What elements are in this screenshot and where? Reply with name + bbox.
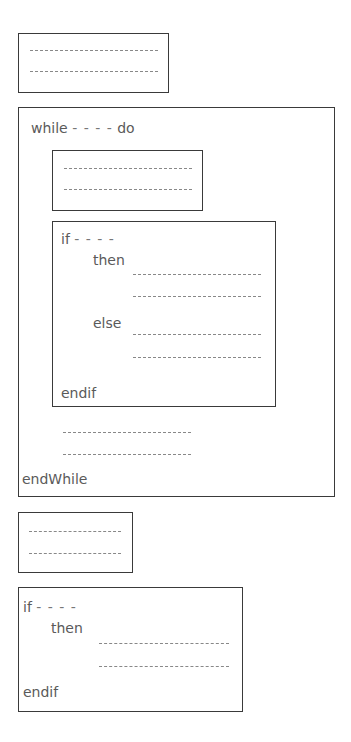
sequence-block-3: [18, 512, 133, 573]
while-block: while - - - - do if - - - - then else en…: [18, 107, 335, 497]
if-condition: - - - -: [74, 231, 115, 247]
placeholder-line: [63, 454, 191, 455]
placeholder-line: [133, 296, 261, 297]
endif-keyword: endif: [23, 684, 58, 700]
if-header: if - - - -: [23, 599, 77, 615]
placeholder-line: [133, 274, 261, 275]
while-keyword: while: [31, 120, 68, 136]
sequence-block-2: [52, 150, 203, 211]
do-keyword: do: [117, 120, 134, 136]
placeholder-line: [64, 189, 192, 190]
endif-keyword: endif: [61, 385, 96, 401]
placeholder-line: [133, 334, 261, 335]
placeholder-line: [30, 50, 158, 51]
then-keyword: then: [51, 620, 83, 636]
then-keyword: then: [93, 252, 125, 268]
placeholder-line: [99, 643, 229, 644]
if-then-block: if - - - - then endif: [18, 587, 243, 712]
placeholder-line: [99, 666, 229, 667]
while-header: while - - - - do: [31, 120, 135, 136]
if-keyword: if: [61, 231, 70, 247]
if-keyword: if: [23, 599, 32, 615]
placeholder-line: [64, 168, 192, 169]
else-keyword: else: [93, 315, 121, 331]
sequence-block-1: [18, 33, 169, 93]
if-header: if - - - -: [61, 231, 115, 247]
placeholder-line: [29, 531, 121, 532]
placeholder-line: [133, 357, 261, 358]
placeholder-line: [63, 432, 191, 433]
if-then-else-block: if - - - - then else endif: [52, 221, 276, 407]
endwhile-keyword: endWhile: [22, 471, 87, 487]
placeholder-line: [30, 71, 158, 72]
if-condition: - - - -: [36, 599, 77, 615]
placeholder-line: [29, 553, 121, 554]
while-condition: - - - -: [72, 120, 113, 136]
